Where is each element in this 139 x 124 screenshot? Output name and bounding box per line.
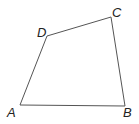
vertex-label-d: D [37,25,46,40]
vertex-label-a: A [6,105,16,120]
vertex-label-b: B [123,105,132,120]
quadrilateral-abcd [20,17,125,106]
quadrilateral-diagram: A B C D [0,0,139,124]
vertex-label-c: C [112,5,122,20]
